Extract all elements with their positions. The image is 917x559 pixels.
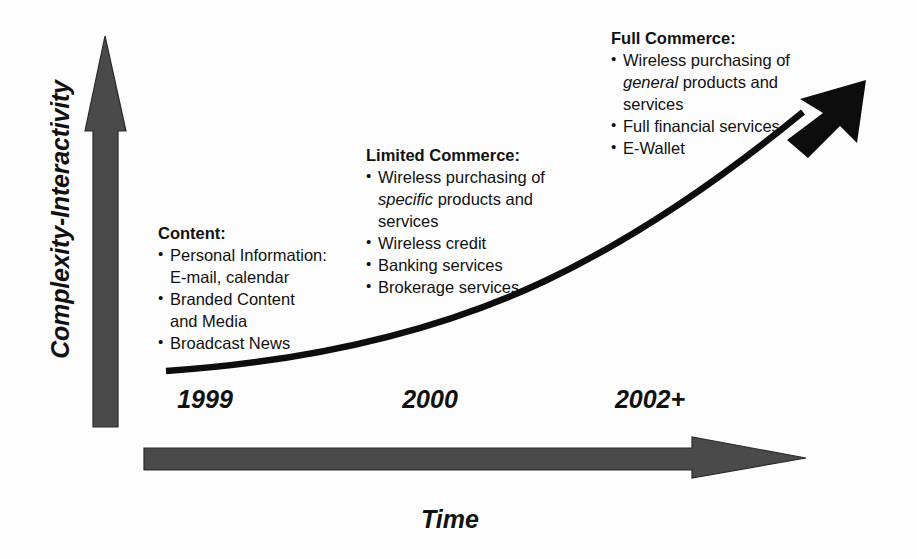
year-label-2000: 2000 bbox=[380, 385, 480, 414]
list-item: Wireless purchasing of specific products… bbox=[366, 166, 596, 232]
stage-title-limited-commerce: Limited Commerce: bbox=[366, 144, 596, 166]
y-axis-arrow-icon bbox=[85, 36, 126, 427]
list-item: Wireless credit bbox=[366, 232, 596, 254]
list-item: Branded Content and Media bbox=[158, 288, 363, 332]
year-label-1999: 1999 bbox=[155, 385, 255, 414]
list-item-continuation: services bbox=[378, 212, 439, 230]
list-item-text-before: Wireless purchasing of bbox=[623, 51, 790, 69]
stage-block-full-commerce: Full Commerce: Wireless purchasing of ge… bbox=[611, 27, 846, 159]
list-item-continuation: services bbox=[623, 95, 684, 113]
list-item-text-before: Wireless purchasing of bbox=[378, 168, 545, 186]
list-item: Banking services bbox=[366, 254, 596, 276]
list-item: Full financial services bbox=[611, 115, 846, 137]
list-item-text: Banking services bbox=[378, 256, 503, 274]
stage-list-full-commerce: Wireless purchasing of general products … bbox=[611, 49, 846, 159]
list-item-text: E-Wallet bbox=[623, 139, 685, 157]
list-item-emphasis: general bbox=[623, 73, 678, 91]
list-item-continuation: and Media bbox=[170, 312, 247, 330]
year-label-2002-plus: 2002+ bbox=[595, 385, 705, 414]
list-item-text: Full financial services bbox=[623, 117, 780, 135]
list-item-text: Personal Information: bbox=[170, 246, 327, 264]
stage-title-content: Content: bbox=[158, 222, 363, 244]
x-axis-label: Time bbox=[340, 505, 560, 534]
list-item-text-after: products and bbox=[683, 73, 778, 91]
stage-title-full-commerce: Full Commerce: bbox=[611, 27, 846, 49]
list-item-emphasis: specific bbox=[378, 190, 433, 208]
list-item-text-after: products and bbox=[438, 190, 533, 208]
list-item: Wireless purchasing of general products … bbox=[611, 49, 846, 115]
stage-list-content: Personal Information: E-mail, calendar B… bbox=[158, 244, 363, 354]
list-item: Broadcast News bbox=[158, 332, 363, 354]
list-item-continuation: E-mail, calendar bbox=[170, 268, 289, 286]
list-item: Personal Information: E-mail, calendar bbox=[158, 244, 363, 288]
list-item-text: Broadcast News bbox=[170, 334, 290, 352]
diagram-canvas: Complexity-Interactivity Time 1999 2000 … bbox=[0, 0, 917, 559]
list-item-text: Branded Content bbox=[170, 290, 295, 308]
list-item-text: Brokerage services bbox=[378, 278, 519, 296]
list-item-text: Wireless credit bbox=[378, 234, 486, 252]
x-axis-arrow-icon bbox=[144, 437, 806, 478]
stage-block-limited-commerce: Limited Commerce: Wireless purchasing of… bbox=[366, 144, 596, 298]
list-item: Brokerage services bbox=[366, 276, 596, 298]
list-item: E-Wallet bbox=[611, 137, 846, 159]
stage-list-limited-commerce: Wireless purchasing of specific products… bbox=[366, 166, 596, 298]
stage-block-content: Content: Personal Information: E-mail, c… bbox=[158, 222, 363, 354]
y-axis-label: Complexity-Interactivity bbox=[46, 55, 75, 385]
